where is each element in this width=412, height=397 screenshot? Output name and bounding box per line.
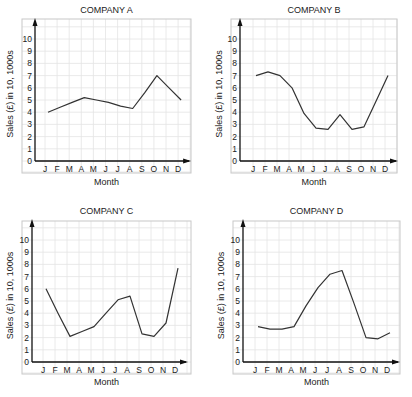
x-tick-label: D [382, 164, 388, 174]
x-tick-label: M [90, 164, 97, 174]
chart-company-c: COMPANY C012345678910JFMAMJJASONDMonthSa… [5, 206, 191, 387]
y-tick-label: 6 [235, 284, 240, 294]
y-tick-label: 8 [235, 259, 240, 269]
x-tick-label: J [325, 365, 329, 375]
y-tick-label: 10 [231, 235, 241, 245]
y-tick-label: 8 [24, 259, 29, 269]
x-tick-label: F [54, 164, 59, 174]
x-tick-label: S [348, 365, 354, 375]
y-tick-label: 9 [27, 46, 32, 56]
x-tick-label: O [151, 164, 158, 174]
x-tick-label: S [136, 365, 142, 375]
y-tick-label: 2 [232, 132, 237, 142]
chart-title: COMPANY C [80, 206, 134, 216]
x-tick-label: M [63, 365, 70, 375]
x-tick-label: A [334, 164, 340, 174]
y-tick-label: 1 [235, 345, 240, 355]
x-tick-label: D [172, 365, 178, 375]
sales-line [256, 72, 388, 129]
x-tick-label: S [139, 164, 145, 174]
y-tick-label: 5 [232, 95, 237, 105]
y-axis-label: Sales (£) in 10, 1000s [5, 50, 15, 138]
y-tick-label: 4 [27, 107, 32, 117]
x-axis-label: Month [94, 377, 119, 387]
x-tick-label: N [160, 365, 166, 375]
sales-line [46, 268, 178, 336]
x-tick-label: N [163, 164, 169, 174]
x-tick-label: M [275, 365, 282, 375]
y-tick-label: 10 [228, 34, 238, 44]
y-tick-label: 10 [20, 235, 30, 245]
x-tick-label: J [43, 164, 47, 174]
y-tick-label: 7 [232, 71, 237, 81]
y-tick-label: 8 [232, 58, 237, 68]
x-tick-label: A [78, 164, 84, 174]
y-tick-label: 7 [235, 272, 240, 282]
y-tick-label: 6 [232, 83, 237, 93]
y-tick-label: 4 [232, 107, 237, 117]
y-tick-label: 9 [232, 46, 237, 56]
y-tick-label: 1 [27, 144, 32, 154]
x-tick-label: J [311, 164, 315, 174]
x-tick-label: M [299, 365, 306, 375]
y-axis-label: Sales (£) in 10, 1000s [5, 251, 15, 339]
x-tick-label: M [297, 164, 304, 174]
y-tick-label: 10 [23, 34, 33, 44]
y-tick-label: 0 [235, 357, 240, 367]
x-tick-label: A [124, 365, 130, 375]
y-tick-label: 0 [27, 156, 32, 166]
x-tick-label: J [251, 164, 255, 174]
y-axis-label: Sales (£) in 10, 1000s [214, 50, 224, 138]
x-tick-label: O [358, 164, 365, 174]
chart-company-d: COMPANY D012345678910JFMAMJJASONDMonthSa… [216, 206, 400, 387]
chart-title: COMPANY D [290, 206, 344, 216]
y-tick-label: 5 [27, 95, 32, 105]
x-tick-label: J [323, 164, 327, 174]
y-axis-arrow-icon [241, 219, 246, 227]
sales-line [258, 271, 390, 339]
x-axis-label: Month [301, 177, 326, 187]
x-tick-label: S [346, 164, 352, 174]
x-tick-label: F [52, 365, 57, 375]
x-tick-label: D [175, 164, 181, 174]
chart-title: COMPANY B [287, 5, 340, 15]
y-tick-label: 7 [24, 272, 29, 282]
x-tick-label: A [336, 365, 342, 375]
x-tick-label: J [113, 365, 117, 375]
y-tick-label: 0 [232, 156, 237, 166]
y-tick-label: 2 [235, 333, 240, 343]
y-tick-label: 6 [24, 284, 29, 294]
y-tick-label: 2 [27, 132, 32, 142]
x-tick-label: J [103, 164, 107, 174]
y-tick-label: 1 [232, 144, 237, 154]
y-tick-label: 6 [27, 83, 32, 93]
x-axis-label: Month [94, 177, 119, 187]
x-tick-label: F [262, 164, 267, 174]
y-tick-label: 3 [24, 320, 29, 330]
x-tick-label: M [87, 365, 94, 375]
y-tick-label: 7 [27, 71, 32, 81]
charts-canvas: COMPANY A012345678910JFMAMJJASONDMonthSa… [0, 0, 412, 397]
chart-company-b: COMPANY B012345678910JFMAMJJASONDMonthSa… [214, 5, 398, 187]
x-tick-label: J [101, 365, 105, 375]
x-tick-label: M [66, 164, 73, 174]
plot-frame [231, 19, 397, 173]
x-tick-label: M [273, 164, 280, 174]
plot-frame [22, 221, 191, 374]
y-tick-label: 9 [24, 247, 29, 257]
y-tick-label: 3 [232, 119, 237, 129]
x-tick-label: N [370, 164, 376, 174]
y-tick-label: 8 [27, 58, 32, 68]
x-tick-label: D [384, 365, 390, 375]
y-tick-label: 4 [235, 308, 240, 318]
y-tick-label: 3 [235, 320, 240, 330]
x-tick-label: A [288, 365, 294, 375]
y-tick-label: 9 [235, 247, 240, 257]
x-tick-label: J [313, 365, 317, 375]
y-axis-label: Sales (£) in 10, 1000s [216, 251, 226, 339]
x-tick-label: A [76, 365, 82, 375]
chart-title: COMPANY A [80, 5, 133, 15]
x-axis-label: Month [304, 377, 329, 387]
x-tick-label: J [41, 365, 45, 375]
x-tick-label: A [286, 164, 292, 174]
